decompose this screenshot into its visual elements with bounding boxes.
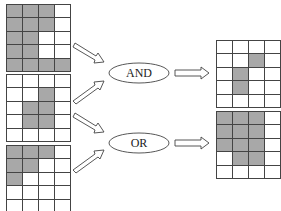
arrow-c-to-or bbox=[73, 150, 104, 173]
arrow-and-to-result bbox=[175, 67, 209, 79]
arrow-or-to-result bbox=[175, 137, 209, 149]
arrow-b-to-and bbox=[73, 81, 104, 104]
and-label: AND bbox=[109, 66, 169, 81]
or-label: OR bbox=[109, 136, 169, 151]
arrow-b-to-or bbox=[73, 113, 104, 133]
diagram-connectors bbox=[0, 0, 281, 211]
arrow-a-to-and bbox=[73, 43, 104, 63]
